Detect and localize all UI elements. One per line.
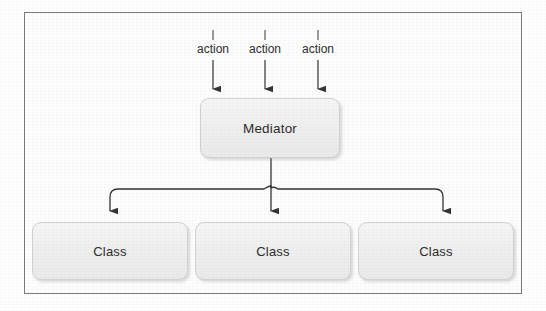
action-tick-marks <box>213 30 318 40</box>
class-node-3: Class <box>358 222 514 280</box>
action-input-arrows <box>213 60 318 89</box>
mediator-fanout <box>110 158 443 211</box>
action-label-1: action <box>189 42 237 56</box>
diagram-page: action action action Mediator Class Clas… <box>0 0 546 311</box>
action-label-3: action <box>294 42 342 56</box>
mediator-node: Mediator <box>200 98 340 158</box>
class-node-2-label: Class <box>256 244 290 259</box>
class-node-1: Class <box>32 222 188 280</box>
mediator-node-label: Mediator <box>243 121 297 136</box>
branch-right <box>271 187 443 211</box>
branch-left <box>110 186 271 211</box>
class-node-2: Class <box>195 222 351 280</box>
class-node-1-label: Class <box>93 244 127 259</box>
action-label-2: action <box>241 42 289 56</box>
class-node-3-label: Class <box>419 244 453 259</box>
